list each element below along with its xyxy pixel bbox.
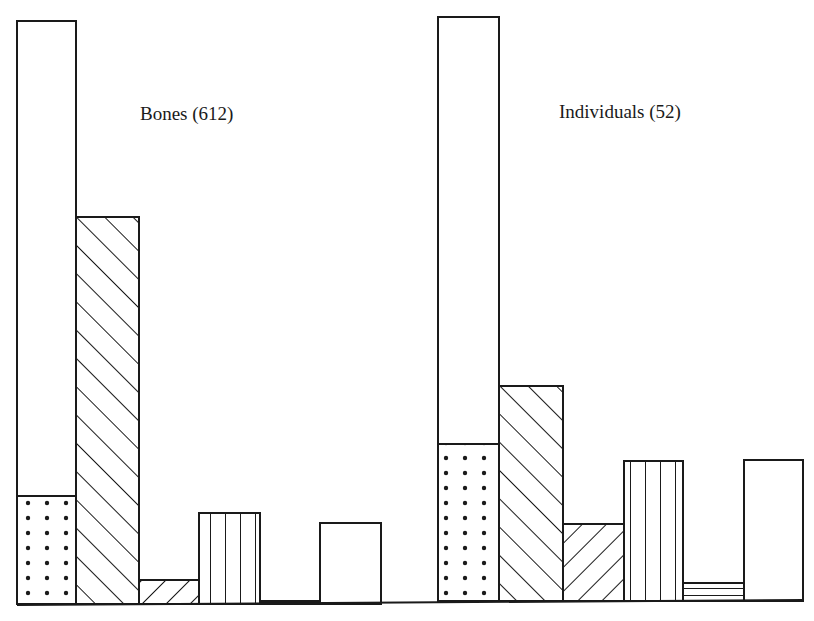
bar-individuals-5 [683, 583, 744, 601]
bar-individuals-3 [563, 524, 624, 601]
bars-layer [17, 17, 803, 604]
panel-title-bones: Bones (612) [140, 103, 233, 125]
bar-chart [0, 0, 814, 621]
bar-bones-1-segment-plain [17, 21, 76, 496]
bar-bones-1-segment-dots [17, 496, 76, 604]
bar-bones-6 [320, 523, 381, 604]
panel-title-individuals: Individuals (52) [559, 101, 681, 123]
bar-bones-2 [76, 217, 139, 604]
bar-individuals-6 [744, 460, 803, 601]
bar-individuals-4 [624, 461, 683, 601]
bar-individuals-2 [499, 386, 563, 601]
bar-individuals-1-segment-dots [438, 444, 499, 601]
bar-individuals-1-segment-plain [438, 17, 499, 444]
bar-bones-3 [139, 580, 199, 604]
bar-bones-4 [199, 513, 260, 604]
